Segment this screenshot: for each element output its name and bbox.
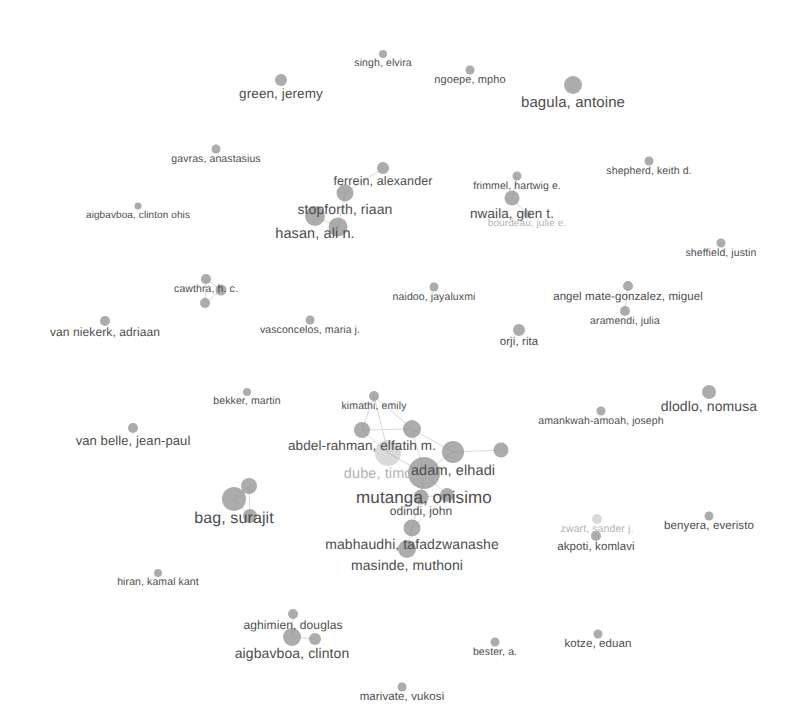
network-node[interactable] [200, 298, 210, 308]
network-node-label[interactable]: orji, rita [500, 336, 539, 348]
network-node-label[interactable]: singh, elvira [354, 57, 411, 69]
network-node[interactable] [398, 683, 407, 692]
network-node[interactable] [275, 74, 287, 86]
network-node-label[interactable]: aigbavboa, clinton ohis [86, 209, 190, 220]
network-node-label[interactable]: amankwah-amoah, joseph [538, 415, 663, 427]
network-map-canvas[interactable]: singh, elviragreen, jeremyngoepe, mphoba… [0, 0, 801, 712]
network-node[interactable] [594, 630, 603, 639]
network-node-label[interactable]: bag, surajit [194, 510, 273, 528]
edge-layer [0, 0, 801, 712]
network-node[interactable] [241, 478, 257, 494]
network-node[interactable] [466, 66, 475, 75]
network-node[interactable] [309, 633, 321, 645]
network-node-label[interactable]: bekker, martin [213, 395, 280, 407]
network-node-label[interactable]: akpoti, komlavi [557, 541, 635, 553]
network-node-label[interactable]: aghimien, douglas [243, 618, 342, 632]
network-node-label[interactable]: hiran, kamal kant [117, 576, 199, 588]
network-node-label[interactable]: masinde, muthoni [351, 557, 463, 573]
network-node-label[interactable]: van niekerk, adriaan [50, 325, 160, 339]
network-node-label[interactable]: odindi, john [390, 504, 453, 518]
network-node[interactable] [513, 324, 525, 336]
network-node[interactable] [404, 520, 421, 537]
network-node-label[interactable]: gavras, anastasius [171, 153, 260, 165]
network-node[interactable] [442, 441, 464, 463]
network-node-label[interactable]: kotze, eduan [564, 638, 631, 650]
network-node-label[interactable]: vasconcelos, maria j. [260, 324, 360, 336]
network-node-label[interactable]: green, jeremy [239, 86, 323, 101]
network-node-label[interactable]: bourdeau, julie e. [488, 218, 567, 229]
network-node-label[interactable]: kimathi, emily [342, 400, 407, 412]
network-node[interactable] [505, 191, 520, 206]
network-node-label[interactable]: marivate, vukosi [360, 691, 445, 703]
network-node-label[interactable]: mabhaudhi, tafadzwanashe [325, 536, 499, 552]
network-node-label[interactable]: hasan, ali n. [275, 226, 355, 242]
network-node-label[interactable]: angel mate-gonzalez, miguel [553, 291, 703, 303]
network-node-label[interactable]: aigbavboa, clinton [235, 645, 350, 661]
network-node-label[interactable]: cawthra, h. c. [174, 283, 238, 295]
network-node-label[interactable]: bagula, antoine [521, 93, 625, 110]
network-node-label[interactable]: benyera, everisto [664, 520, 754, 532]
network-node-label[interactable]: van belle, jean-paul [76, 432, 191, 447]
network-node-label[interactable]: sheffield, justin [686, 247, 757, 259]
network-node-label[interactable]: stopforth, riaan [298, 201, 393, 217]
network-node-label[interactable]: abdel-rahman, elfatih m. [288, 438, 436, 453]
network-node[interactable] [354, 422, 370, 438]
network-node-label[interactable]: frimmel, hartwig e. [473, 180, 561, 192]
network-node[interactable] [377, 162, 389, 174]
network-node-label[interactable]: dlodlo, nomusa [661, 398, 757, 414]
network-node-label[interactable]: zwart, sander j. [561, 523, 634, 535]
network-node-label[interactable]: ferrein, alexander [333, 174, 432, 188]
network-node[interactable] [705, 512, 714, 521]
network-node-label[interactable]: ngoepe, mpho [434, 74, 506, 86]
network-node-label[interactable]: aramendi, julia [590, 315, 660, 327]
network-node-label[interactable]: shepherd, keith d. [606, 165, 691, 177]
network-node[interactable] [623, 281, 633, 291]
network-node-label[interactable]: naidoo, jayaluxmi [393, 291, 476, 303]
network-node-label[interactable]: adam, elhadi [411, 463, 495, 479]
network-node[interactable] [564, 76, 582, 94]
network-node[interactable] [494, 443, 509, 458]
network-node-label[interactable]: bester, a. [473, 646, 517, 658]
network-node[interactable] [702, 385, 716, 399]
network-node[interactable] [403, 420, 421, 438]
